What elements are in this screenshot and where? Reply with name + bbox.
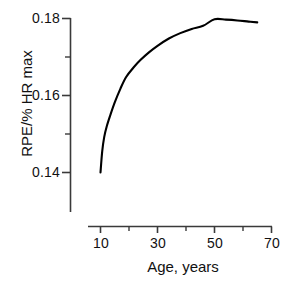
- x-axis-title: Age, years: [88, 258, 278, 275]
- x-tick-label-50: 50: [195, 235, 235, 251]
- x-tick-label-30: 30: [138, 235, 178, 251]
- x-tick-label-70: 70: [252, 235, 291, 251]
- y-axis-title: RPE/% HR max: [18, 29, 35, 179]
- data-series-line: [101, 19, 258, 173]
- x-tick-label-10: 10: [81, 235, 121, 251]
- chart-figure: 0.18 0.16 0.14 10 30 50 70 RPE/% HR max …: [0, 0, 291, 288]
- y-tick-label-0.18: 0.18: [8, 10, 60, 26]
